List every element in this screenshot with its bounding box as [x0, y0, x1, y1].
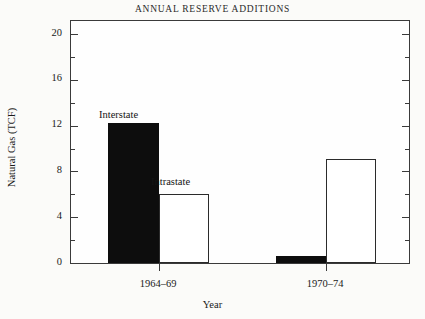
y-tick-label-12: 12	[36, 119, 62, 130]
y-tick-right-20	[402, 34, 409, 35]
y-tick-label-16: 16	[36, 73, 62, 84]
y-tick-right-2	[405, 240, 409, 241]
y-tick-label-20: 20	[36, 28, 62, 39]
y-tick-major-12	[71, 126, 78, 127]
y-tick-minor-2	[71, 240, 75, 241]
x-category-label-1964-69: 1964–69	[118, 278, 198, 289]
y-tick-label-0: 0	[36, 257, 62, 268]
y-tick-minor-18	[71, 57, 75, 58]
y-tick-right-12	[402, 126, 409, 127]
y-tick-major-16	[71, 80, 78, 81]
y-tick-minor-10	[71, 149, 75, 150]
y-tick-label-8: 8	[36, 165, 62, 176]
annotation-intrastate: Intrastate	[151, 176, 190, 187]
y-tick-major-8	[71, 171, 78, 172]
y-tick-minor-6	[71, 194, 75, 195]
y-tick-right-8	[402, 171, 409, 172]
x-tick-1964-69	[159, 263, 160, 271]
y-tick-major-20	[71, 34, 78, 35]
x-category-label-1970-74: 1970–74	[285, 278, 365, 289]
y-tick-right-10	[405, 149, 409, 150]
y-axis-title: Natural Gas (TCF)	[6, 83, 17, 213]
y-tick-right-4	[402, 217, 409, 218]
y-tick-right-18	[405, 57, 409, 58]
plot-area: Interstate Intrastate	[70, 20, 410, 264]
annotation-interstate: Interstate	[99, 109, 138, 120]
x-tick-1970-74	[326, 263, 327, 271]
chart-title: Annual Reserve Additions	[0, 4, 425, 14]
bar-interstate-1970-74	[276, 256, 326, 263]
y-tick-minor-14	[71, 103, 75, 104]
bar-intrastate-1964-69	[159, 194, 209, 263]
y-tick-right-14	[405, 103, 409, 104]
x-axis-title: Year	[0, 299, 425, 310]
bar-interstate-1964-69	[108, 123, 159, 263]
y-tick-right-6	[405, 194, 409, 195]
y-tick-major-0	[71, 263, 78, 264]
y-tick-major-4	[71, 217, 78, 218]
chart-figure: Annual Reserve Additions	[0, 0, 425, 319]
bar-intrastate-1970-74	[326, 159, 376, 263]
y-tick-right-16	[402, 80, 409, 81]
y-tick-right-0	[402, 263, 409, 264]
y-tick-label-4: 4	[36, 211, 62, 222]
